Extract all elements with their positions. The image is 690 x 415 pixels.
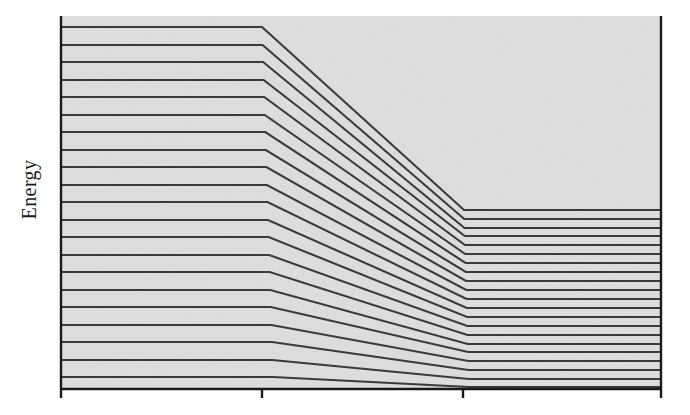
- x-axis-ticks: [61, 389, 661, 398]
- energy-correlation-figure: Energy: [0, 0, 690, 415]
- plot-canvas: [0, 0, 690, 415]
